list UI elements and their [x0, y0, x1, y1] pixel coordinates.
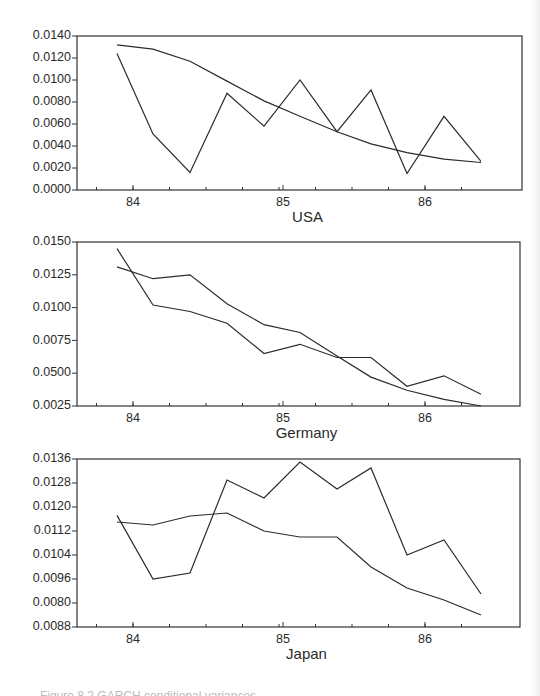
chart-title: USA: [292, 208, 323, 225]
y-tick-label: 0.0120: [33, 50, 71, 64]
chart-usa: 0.01400.01200.01000.00800.00600.00400.00…: [33, 28, 522, 225]
chart-germany: 0.01500.01250.01000.00750.05000.00258485…: [33, 234, 520, 441]
line-series-2: [117, 267, 481, 406]
chart-title: Germany: [276, 424, 338, 441]
y-tick-label: 0.0150: [33, 234, 71, 248]
x-tick-label: 84: [126, 411, 140, 425]
y-tick-label: 0.0100: [33, 72, 71, 86]
chart-title: Japan: [286, 645, 327, 662]
plot-frame: [77, 242, 520, 406]
y-tick-label: 0.0080: [33, 94, 71, 108]
y-tick-label: 0.0112: [34, 523, 71, 537]
line-series-1: [117, 462, 481, 594]
y-tick-label: 0.0060: [33, 116, 71, 130]
x-tick-label: 85: [276, 195, 290, 209]
y-tick-label: 0.0128: [33, 475, 71, 489]
x-tick-label: 86: [418, 195, 432, 209]
x-tick-label: 84: [126, 195, 140, 209]
line-series-2: [117, 45, 481, 163]
y-tick-label: 0.0104: [33, 547, 71, 561]
figure: 0.01400.01200.01000.00800.00600.00400.00…: [0, 0, 540, 696]
y-tick-label: 0.0040: [33, 138, 71, 152]
y-tick-label: 0.0125: [33, 267, 71, 281]
x-tick-label: 85: [276, 632, 290, 646]
y-tick-label: 0.0120: [33, 499, 71, 513]
y-tick-label: 0.0088: [33, 619, 71, 633]
y-tick-label: 0.0000: [33, 182, 71, 196]
plot-frame: [77, 459, 520, 627]
y-tick-label: 0.0500: [33, 365, 71, 379]
x-tick-label: 86: [418, 632, 432, 646]
y-tick-label: 0.0080: [33, 595, 71, 609]
y-tick-label: 0.0136: [33, 451, 71, 465]
y-tick-label: 0.0025: [33, 398, 71, 412]
y-tick-label: 0.0075: [33, 333, 71, 347]
line-series-2: [117, 513, 481, 615]
y-tick-label: 0.0100: [33, 300, 71, 314]
x-tick-label: 84: [126, 632, 140, 646]
chart-japan: 0.01360.01280.01200.01120.01040.00960.00…: [33, 451, 520, 662]
figure-caption: Figure 8.2 GARCH conditional variances .…: [40, 688, 269, 696]
x-tick-label: 85: [276, 411, 290, 425]
y-tick-label: 0.0020: [33, 160, 71, 174]
line-series-1: [117, 249, 481, 395]
y-tick-label: 0.0140: [33, 28, 71, 42]
y-tick-label: 0.0096: [33, 571, 71, 585]
x-tick-label: 86: [418, 411, 432, 425]
